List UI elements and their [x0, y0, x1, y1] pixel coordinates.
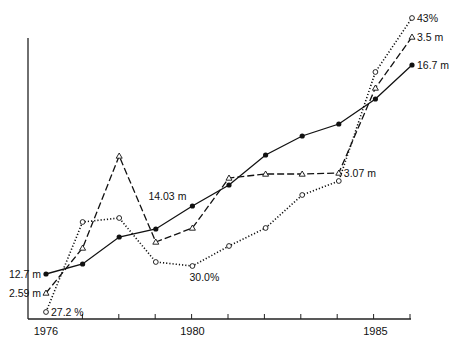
data-annotation-label: 3.5 m	[417, 31, 444, 43]
x-tick-label: 1980	[180, 325, 204, 337]
open-circle-marker	[117, 216, 122, 221]
filled-circle-marker	[80, 261, 85, 266]
open-triangle-marker	[336, 170, 342, 175]
series-group	[43, 16, 415, 315]
filled-circle-marker	[190, 203, 195, 208]
open-circle-marker	[153, 260, 158, 265]
line-chart: 197619801985 12.7 m14.03 m16.7 m2.59 m3.…	[0, 0, 459, 350]
open-triangle-marker	[372, 85, 378, 90]
open-circle-marker	[190, 264, 195, 269]
filled-circle-marker	[117, 234, 122, 239]
filled-circle-marker	[226, 182, 231, 187]
data-annotation-label: 12.7 m	[9, 268, 41, 280]
open-circle-marker	[263, 226, 268, 231]
data-annotation-label: 14.03 m	[148, 190, 186, 202]
x-tick-label: 1976	[34, 325, 58, 337]
open-triangle-marker	[409, 34, 415, 39]
data-annotation-label: 30.0%	[190, 271, 220, 283]
filled-circle-marker	[263, 152, 268, 157]
open-circle-marker	[373, 70, 378, 75]
open-circle-marker	[227, 244, 232, 249]
open-triangle-marker	[116, 153, 122, 158]
filled-circle-marker	[300, 133, 305, 138]
filled-circle-marker	[43, 271, 48, 276]
data-annotation-label: 16.7 m	[417, 59, 449, 71]
filled-circle-marker	[409, 62, 414, 67]
x-tick-label: 1985	[363, 325, 387, 337]
open-circle-marker	[44, 310, 49, 315]
dashed-triangles-line	[46, 37, 412, 293]
annotation-labels: 12.7 m14.03 m16.7 m2.59 m3.07 m3.5 m27.2…	[9, 12, 449, 318]
dotted-open-circles-line	[46, 18, 412, 312]
filled-circle-marker	[336, 121, 341, 126]
data-annotation-label: 2.59 m	[9, 287, 41, 299]
filled-circle-marker	[373, 96, 378, 101]
filled-circle-marker	[153, 226, 158, 231]
open-circle-marker	[300, 193, 305, 198]
data-annotation-label: 43%	[417, 12, 438, 24]
open-circle-marker	[336, 179, 341, 184]
open-circle-marker	[410, 16, 415, 21]
open-circle-marker	[80, 220, 85, 225]
open-triangle-marker	[80, 245, 86, 250]
data-annotation-label: 3.07 m	[344, 167, 376, 179]
axes: 197619801985	[28, 38, 411, 337]
data-annotation-label: 27.2 %	[51, 306, 84, 318]
